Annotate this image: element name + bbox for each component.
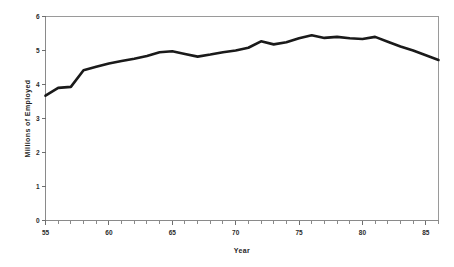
employment-line-chart: 0123456 55606570758085 Year Millions of … (0, 0, 454, 267)
x-axis-major-ticks (46, 221, 426, 226)
y-tick-label-0: 0 (36, 217, 40, 224)
y-tick-label-1: 1 (36, 183, 40, 190)
x-tick-label-70: 70 (232, 229, 240, 236)
y-axis-title: Millions of Employed (24, 79, 32, 157)
y-tick-label-3: 3 (36, 115, 40, 122)
y-tick-label-2: 2 (36, 149, 40, 156)
x-axis-tick-labels: 55606570758085 (42, 229, 430, 236)
x-tick-label-80: 80 (359, 229, 367, 236)
x-tick-label-55: 55 (42, 229, 50, 236)
y-tick-label-5: 5 (36, 47, 40, 54)
x-tick-label-85: 85 (422, 229, 430, 236)
x-tick-label-60: 60 (105, 229, 113, 236)
y-tick-label-4: 4 (36, 81, 40, 88)
y-tick-label-6: 6 (36, 13, 40, 20)
chart-figure: 0123456 55606570758085 Year Millions of … (0, 0, 454, 267)
x-tick-label-65: 65 (169, 229, 177, 236)
data-series-line (46, 35, 439, 96)
y-axis-ticks (42, 17, 46, 221)
x-axis-title: Year (234, 247, 250, 254)
x-tick-label-75: 75 (295, 229, 303, 236)
y-axis-tick-labels: 0123456 (36, 13, 40, 224)
